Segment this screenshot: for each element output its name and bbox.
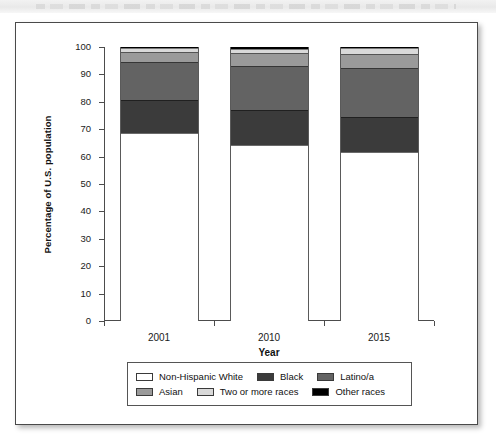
bar-segment-two-or-more-races[interactable]: [121, 48, 198, 52]
x-axis-tick-label: 2010: [258, 332, 280, 343]
legend-swatch-icon: [136, 373, 153, 381]
bar-segment-black[interactable]: [341, 117, 418, 153]
bar-segment-two-or-more-races[interactable]: [341, 48, 418, 54]
legend-label: Non-Hispanic White: [159, 371, 243, 382]
legend-item-two-or-more-races[interactable]: Two or more races: [197, 386, 313, 397]
legend-item-asian[interactable]: Asian: [136, 386, 197, 397]
y-axis-tick: 70: [99, 129, 104, 130]
bar-segment-non-hispanic-white[interactable]: [341, 152, 418, 321]
bar-segment-other-races[interactable]: [121, 47, 198, 48]
bar-2010[interactable]: [230, 47, 309, 321]
y-axis-title: Percentage of U.S. population: [40, 47, 54, 321]
bar-segment-black[interactable]: [121, 100, 198, 134]
chart-legend: Non-Hispanic WhiteBlackLatino/aAsianTwo …: [127, 362, 412, 406]
y-axis-tick-label: 100: [75, 42, 91, 52]
bar-segment-non-hispanic-white[interactable]: [121, 133, 198, 321]
bar-segment-two-or-more-races[interactable]: [231, 49, 308, 54]
bar-segment-black[interactable]: [231, 110, 308, 145]
bar-segment-latino-a[interactable]: [341, 68, 418, 116]
x-axis-tick: [434, 321, 435, 326]
bar-segment-other-races[interactable]: [341, 47, 418, 48]
bar-2001[interactable]: [120, 47, 199, 321]
y-axis-tick: 20: [99, 266, 104, 267]
y-axis-title-text: Percentage of U.S. population: [42, 115, 53, 253]
bar-segment-asian[interactable]: [341, 54, 418, 69]
y-axis-tick-label: 60: [80, 152, 91, 162]
legend-swatch-icon: [136, 388, 153, 396]
y-axis-tick: 10: [99, 294, 104, 295]
legend-row: Non-Hispanic WhiteBlackLatino/a: [136, 369, 403, 384]
legend-swatch-icon: [257, 373, 274, 381]
y-axis-tick: 100: [99, 47, 104, 48]
plot-area: 0102030405060708090100 200120102015: [104, 47, 434, 321]
y-axis-tick-label: 80: [80, 97, 91, 107]
y-axis-tick: 80: [99, 102, 104, 103]
y-axis-tick: 60: [99, 157, 104, 158]
y-axis-tick-label: 20: [80, 261, 91, 271]
legend-item-other-races[interactable]: Other races: [312, 386, 399, 397]
y-axis-tick: 50: [99, 184, 104, 185]
bar-segment-latino-a[interactable]: [231, 66, 308, 110]
bar-2015[interactable]: [340, 47, 419, 321]
legend-label: Latino/a: [340, 371, 374, 382]
legend-label: Asian: [159, 386, 183, 397]
y-axis-tick: 40: [99, 211, 104, 212]
x-axis-tick-label: 2001: [148, 332, 170, 343]
bar-segment-other-races[interactable]: [231, 47, 308, 49]
legend-row: AsianTwo or more racesOther races: [136, 384, 403, 399]
y-axis-tick-label: 50: [80, 179, 91, 189]
legend-item-latino-a[interactable]: Latino/a: [317, 371, 388, 382]
x-axis-tick-label: 2015: [368, 332, 390, 343]
y-axis-line: [104, 47, 105, 321]
bar-segment-asian[interactable]: [231, 53, 308, 66]
y-axis-tick-label: 90: [80, 70, 91, 80]
bar-segment-latino-a[interactable]: [121, 62, 198, 99]
legend-label: Two or more races: [220, 386, 299, 397]
legend-item-black[interactable]: Black: [257, 371, 317, 382]
x-axis-tick: [214, 321, 215, 326]
y-axis-tick-label: 70: [80, 124, 91, 134]
legend-swatch-icon: [312, 388, 329, 396]
y-axis-tick-label: 30: [80, 234, 91, 244]
page-top-text-strip: [0, 0, 496, 13]
screenshot-page: Percentage of U.S. population 0102030405…: [0, 0, 496, 446]
cut-off-text-line: [36, 4, 456, 9]
legend-item-non-hispanic-white[interactable]: Non-Hispanic White: [136, 371, 257, 382]
y-axis-tick: 90: [99, 74, 104, 75]
legend-swatch-icon: [317, 373, 334, 381]
legend-label: Other races: [335, 386, 385, 397]
x-axis-tick: [324, 321, 325, 326]
y-axis-tick: 30: [99, 239, 104, 240]
bar-segment-non-hispanic-white[interactable]: [231, 145, 308, 321]
x-axis-tick: [104, 321, 105, 326]
x-axis-title: Year: [104, 347, 434, 358]
legend-swatch-icon: [197, 388, 214, 396]
y-axis-tick-label: 10: [80, 289, 91, 299]
chart-figure: Percentage of U.S. population 0102030405…: [15, 22, 478, 425]
legend-label: Black: [280, 371, 303, 382]
y-axis-tick-label: 40: [80, 207, 91, 217]
y-axis-tick-label: 0: [86, 316, 91, 326]
bar-segment-asian[interactable]: [121, 52, 198, 62]
